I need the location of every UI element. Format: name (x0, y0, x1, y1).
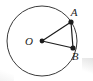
point-label-b: B (72, 50, 79, 62)
circle-diagram-canvas: O A B (0, 0, 93, 81)
segment-chord-ab (71, 22, 73, 48)
segment-radius-oa (42, 22, 71, 41)
geometry-figure: O A B (0, 0, 93, 81)
point-label-a: A (70, 6, 78, 18)
point-label-o: O (25, 35, 33, 47)
point-dot-o (40, 39, 45, 44)
point-dot-a (68, 19, 73, 24)
segment-radius-ob (42, 41, 73, 48)
